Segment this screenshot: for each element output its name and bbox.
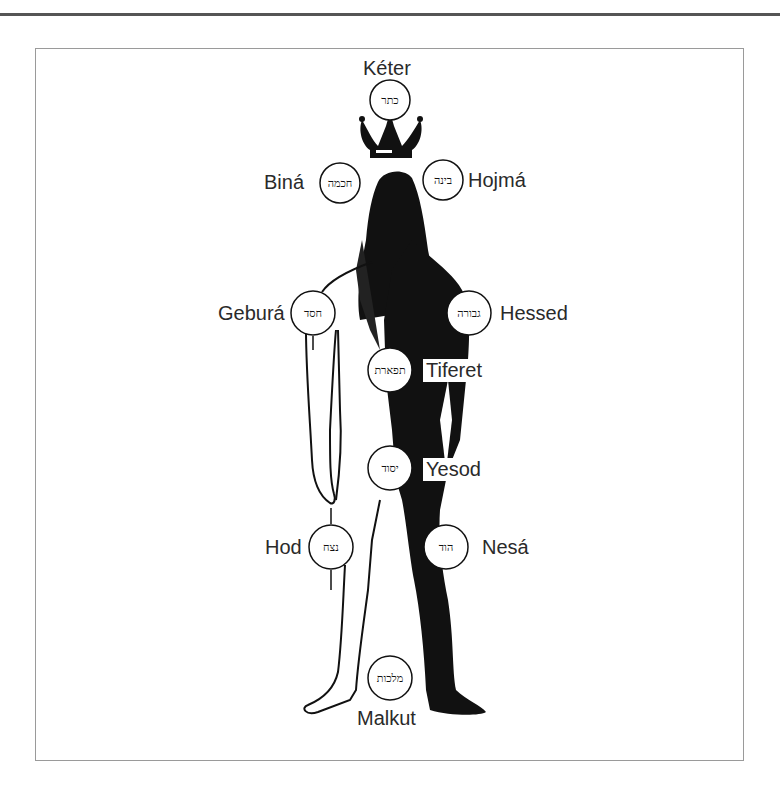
label-hessed: Hessed bbox=[500, 303, 568, 323]
label-malkut: Malkut bbox=[357, 708, 416, 728]
label-yesod: Yesod bbox=[423, 458, 484, 481]
label-hod: Hod bbox=[265, 537, 302, 557]
hessed-hebrew: גבורה bbox=[457, 307, 481, 320]
label-bina: Biná bbox=[264, 172, 304, 192]
label-gebura: Geburá bbox=[218, 303, 285, 323]
malkut-hebrew: מלכות bbox=[377, 672, 404, 685]
yesod-hebrew: יסוד bbox=[381, 462, 398, 475]
keter-hebrew: כתר bbox=[381, 94, 399, 107]
bina-hebrew: חכמה bbox=[328, 177, 353, 190]
tiferet-hebrew: תפארת bbox=[374, 364, 405, 377]
gebura-hebrew: חסד bbox=[304, 307, 322, 320]
label-tiferet: Tiferet bbox=[423, 359, 485, 382]
label-hojma: Hojmá bbox=[468, 170, 526, 190]
nesa-hebrew: הוד bbox=[439, 541, 453, 554]
hojma-hebrew: בינה bbox=[434, 174, 452, 187]
label-keter: Kéter bbox=[363, 58, 411, 78]
hod-hebrew: נצח bbox=[323, 541, 339, 554]
label-nesa: Nesá bbox=[482, 537, 529, 557]
figure-illustration: כתר חכמה בינה חסד גבורה תפארת יסוד נצח ה… bbox=[0, 0, 780, 807]
